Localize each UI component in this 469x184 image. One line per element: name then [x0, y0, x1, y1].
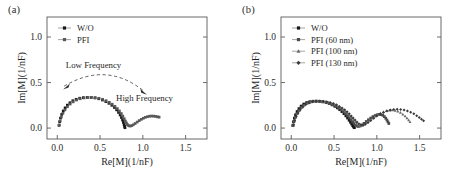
x-axis-tick-label: 1.0 — [137, 143, 149, 153]
data-point-marker — [79, 97, 82, 100]
high-frequency-label: High Frequency — [116, 93, 174, 103]
data-point-marker — [101, 98, 104, 101]
data-point-marker — [66, 105, 69, 108]
data-point-marker — [86, 96, 89, 99]
data-point-marker — [75, 99, 78, 102]
legend-label: W/O — [77, 23, 94, 33]
legend-marker — [297, 38, 300, 41]
y-axis-tick-label: 0.5 — [264, 78, 276, 88]
data-point-marker — [108, 101, 111, 104]
legend: W/OPFI (60 nm)PFI (100 nm)PFI (130 nm) — [292, 23, 357, 68]
data-point-marker — [60, 116, 63, 119]
legend-marker — [63, 38, 66, 41]
figure-container: (a) 0.00.51.01.50.00.51.0Re[M](1/nF)Im[M… — [0, 0, 469, 184]
x-axis-tick-label: 1.0 — [371, 143, 383, 153]
data-point-marker — [59, 120, 62, 123]
legend-label: PFI — [77, 35, 90, 45]
legend-label: PFI (60 nm) — [311, 35, 353, 45]
data-point-marker — [90, 96, 93, 99]
legend: W/OPFI — [58, 23, 94, 45]
legend-marker — [63, 26, 66, 29]
data-series — [292, 99, 425, 126]
data-point-marker — [124, 126, 127, 129]
data-point-marker — [69, 103, 72, 106]
data-point-marker — [353, 126, 356, 129]
x-axis-tick-label: 1.5 — [414, 143, 426, 153]
data-point-marker — [401, 113, 404, 116]
data-point-marker — [72, 101, 75, 104]
data-point-marker — [415, 114, 418, 117]
plot-frame — [281, 17, 441, 139]
data-point-marker — [83, 97, 86, 100]
data-point-marker — [111, 103, 114, 106]
data-point-marker — [105, 99, 108, 102]
x-axis-tick-label: 1.5 — [180, 143, 192, 153]
data-point-marker — [116, 107, 119, 110]
y-axis-title: Im[M](1/nF) — [250, 52, 262, 104]
data-point-marker — [409, 111, 412, 114]
legend-label: PFI (100 nm) — [311, 46, 357, 56]
x-axis-tick-label: 0.5 — [328, 143, 340, 153]
y-axis-tick-label: 0.0 — [264, 123, 276, 133]
data-point-marker — [420, 118, 423, 121]
y-axis-tick-label: 1.0 — [264, 32, 276, 42]
data-point-marker — [399, 111, 402, 114]
legend-marker — [297, 26, 300, 29]
data-point-marker — [58, 124, 61, 127]
data-point-marker — [418, 116, 421, 119]
panel-b: (b) 0.00.51.01.50.00.51.0Re[M](1/nF)Im[M… — [234, 0, 468, 184]
data-point-marker — [385, 109, 388, 112]
legend-label: PFI (130 nm) — [311, 58, 357, 68]
legend-marker — [296, 61, 300, 65]
data-point-marker — [387, 122, 390, 125]
legend-label: W/O — [311, 23, 328, 33]
x-axis-title: Re[M](1/nF) — [101, 156, 153, 168]
data-point-marker — [121, 115, 124, 118]
x-axis-title: Re[M](1/nF) — [335, 156, 387, 168]
data-point-marker — [406, 109, 409, 112]
panel-a: (a) 0.00.51.01.50.00.51.0Re[M](1/nF)Im[M… — [0, 0, 234, 184]
y-axis-tick-label: 0.0 — [30, 123, 42, 133]
data-point-marker — [403, 109, 406, 112]
data-point-marker — [123, 117, 126, 120]
data-point-marker — [64, 109, 67, 112]
data-point-marker — [399, 108, 402, 111]
x-axis-tick-label: 0.5 — [94, 143, 106, 153]
data-point-marker — [114, 105, 117, 108]
frequency-direction-arrow — [64, 75, 144, 92]
y-axis-title: Im[M](1/nF) — [16, 52, 28, 104]
low-frequency-label: Low Frequency — [66, 60, 122, 70]
data-point-marker — [94, 96, 97, 99]
data-point-marker — [412, 112, 415, 115]
plot-frame — [47, 17, 207, 139]
panel-a-plot: 0.00.51.01.50.00.51.0Re[M](1/nF)Im[M](1/… — [0, 0, 234, 184]
data-point-marker — [118, 110, 121, 113]
panel-b-plot: 0.00.51.01.50.00.51.0Re[M](1/nF)Im[M](1/… — [234, 0, 468, 184]
data-point-marker — [422, 119, 425, 122]
y-axis-tick-label: 0.5 — [30, 78, 42, 88]
data-point-marker — [396, 108, 399, 111]
x-axis-tick-label: 0.0 — [51, 143, 63, 153]
data-point-marker — [120, 112, 123, 115]
data-point-marker — [98, 97, 101, 100]
x-axis-tick-label: 0.0 — [285, 143, 297, 153]
y-axis-tick-label: 1.0 — [30, 32, 42, 42]
data-point-marker — [62, 112, 65, 115]
data-point-marker — [158, 116, 161, 119]
